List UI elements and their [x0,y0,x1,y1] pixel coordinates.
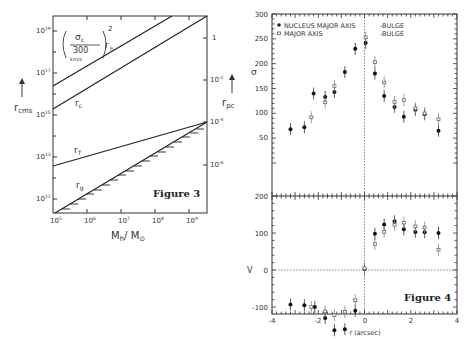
data-point-open [414,107,417,110]
v-tick-labels: 100 0 -100 -200 [252,230,268,319]
data-point-open [343,311,346,314]
svg-text:250: 250 [255,35,268,43]
svg-text:0: 0 [264,267,268,275]
data-point-filled [353,47,357,51]
curve-rT [53,122,207,166]
data-point-filled [289,127,293,131]
data-point-open [402,99,405,102]
svg-text:1011: 1011 [36,194,51,203]
data-point-filled [302,303,306,307]
data-point-filled [343,327,347,331]
figure-4-ylabel-bottom: V [247,266,253,275]
data-point-open [354,299,357,302]
data-point-open [333,85,336,88]
curve-rc [53,16,207,109]
svg-text:300: 300 [73,46,88,55]
svg-text:10-6: 10-6 [210,160,224,169]
svg-text:2: 2 [108,25,112,33]
data-point-filled [353,309,357,313]
svg-text:106: 106 [84,216,96,225]
svg-text:h: h [110,45,114,52]
sigma-tick-labels: 300 250 200 150 100 50 200 [255,11,268,201]
data-point-open [437,118,440,121]
svg-text:-2: -2 [315,317,322,325]
rcms-arrow-icon [19,78,25,97]
data-point-open [402,221,405,224]
svg-text:r: r [105,40,109,50]
svg-text:2: 2 [409,317,413,325]
svg-text:100: 100 [255,109,268,117]
svg-text:300: 300 [255,11,268,19]
data-point-filled [343,70,347,74]
svg-text:-100: -100 [252,304,268,312]
svg-text:105: 105 [50,216,62,225]
svg-text:100: 100 [255,230,268,238]
data-point-filled [302,125,306,129]
data-point-open [333,314,336,317]
data-point-filled [437,231,441,235]
svg-text:1019: 1019 [36,26,51,35]
figure-3-caption: Figure 3 [153,188,200,199]
data-point-filled [437,129,441,133]
data-point-open [373,61,376,64]
data-point-open [310,306,313,309]
rc-label: rc [75,98,82,109]
data-point-filled [332,328,336,332]
figure-3-bottom-tick-labels: 105 106 107 108 109 [50,216,198,225]
svg-text:10-2: 10-2 [210,75,224,84]
rpc-arrow-icon [229,74,235,93]
svg-text:1: 1 [212,34,216,42]
svg-text:4: 4 [455,317,460,325]
curve-rg [55,122,207,213]
rg-label: rg [76,180,84,192]
svg-text:1015: 1015 [36,110,51,119]
data-point-open [423,226,426,229]
data-point-open [414,225,417,228]
legend-item-2-suffix: -BULGE [380,30,404,38]
svg-text:1013: 1013 [36,152,51,161]
figure-3-left-tick-labels: 1019 1017 1015 1013 1011 [36,26,51,203]
figure-4: 300 250 200 150 100 50 200 100 0 -100 -2… [247,11,460,337]
svg-text:c: c [81,36,84,43]
data-point-filled [373,72,377,76]
rh-label: σ c 300 km/s 2 r h [63,25,114,62]
svg-text:109: 109 [186,216,198,225]
data-point-open [383,231,386,234]
svg-text:108: 108 [152,216,164,225]
svg-text:107: 107 [118,216,130,225]
data-point-filled [402,115,406,119]
data-point-open [437,248,440,251]
svg-text:1017: 1017 [36,68,51,77]
data-point-open [363,267,366,270]
legend-item-2-label: MAJOR AXIS [284,30,323,38]
svg-text:km/s: km/s [70,56,82,62]
data-point-open [393,101,396,104]
svg-text:0: 0 [363,317,367,325]
figure-4-legend: NUCLEUS MAJOR AXIS -BULGE MAJOR AXIS -BU… [277,22,404,38]
rT-label: rT [74,145,82,156]
figure-3: σ c 300 km/s 2 r h rc rT rg 1019 1017 10… [14,16,235,243]
legend-filled-marker-icon [277,23,281,27]
data-point-open [310,116,313,119]
svg-text:150: 150 [255,85,268,93]
data-point-filled [289,302,293,306]
data-point-open [423,112,426,115]
data-point-open [324,101,327,104]
data-point-filled [312,91,316,95]
svg-text:50: 50 [259,134,268,142]
data-point-open [324,310,327,313]
svg-text:-4: -4 [269,317,277,325]
data-point-filled [382,94,386,98]
figure-4-ylabel-top: σ [251,67,257,77]
r-tick-labels: -4 -2 0 2 4 [269,317,460,325]
data-point-open [383,81,386,84]
figures-canvas: σ c 300 km/s 2 r h rc rT rg 1019 1017 10… [0,0,475,339]
legend-item-1-label: NUCLEUS MAJOR AXIS [284,22,355,30]
figure-3-xlabel: Mh/ M⊙ [111,230,145,243]
data-point-filled [313,305,317,309]
figure-4-xlabel: r (arcsec) [350,329,381,337]
data-point-open [364,36,367,39]
figure-3-ylabel-left: rcms [14,102,33,115]
svg-text:10-4: 10-4 [210,117,224,126]
data-point-filled [373,232,377,236]
